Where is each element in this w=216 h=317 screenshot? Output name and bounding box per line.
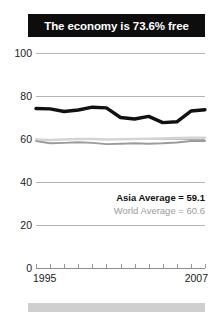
x-axis-tick-2002: [135, 264, 136, 268]
chart-legend: Asia Average = 59.1 World Average = 60.6: [114, 192, 205, 217]
x-axis-tick-1997: [64, 264, 65, 268]
legend-asia-average: Asia Average = 59.1: [114, 192, 205, 205]
x-axis-tick-2000: [106, 264, 107, 268]
page-title: The economy is 73.6% free: [44, 20, 189, 32]
x-axis-label-end: 2007: [185, 272, 208, 284]
chart-title-banner: The economy is 73.6% free: [28, 14, 205, 37]
x-axis-tick-2005: [177, 264, 178, 268]
x-axis-tick-2003: [149, 264, 150, 268]
x-axis-tick-2001: [121, 264, 122, 268]
x-axis-tick-1996: [50, 264, 51, 268]
footer-bar: [28, 303, 205, 312]
economy-freedom-line: [36, 107, 205, 122]
x-axis-tick-2007: [205, 264, 206, 268]
x-axis-tick-1998: [78, 264, 79, 268]
x-axis-line: [36, 268, 205, 269]
x-axis-label-start: 1995: [33, 272, 56, 284]
x-axis-tick-1999: [92, 264, 93, 268]
economy-freedom-chart: The economy is 73.6% free 100806040200 A…: [0, 0, 216, 317]
plot-area: 100806040200 Asia Average = 59.1 World A…: [0, 40, 216, 280]
series-layer: [0, 40, 216, 280]
world-average-line: [36, 138, 205, 140]
x-axis-tick-1995: [36, 264, 37, 268]
legend-world-average: World Average = 60.6: [114, 205, 205, 218]
x-axis-tick-2004: [163, 264, 164, 268]
asia-average-line: [36, 141, 205, 144]
x-axis-tick-2006: [191, 264, 192, 268]
